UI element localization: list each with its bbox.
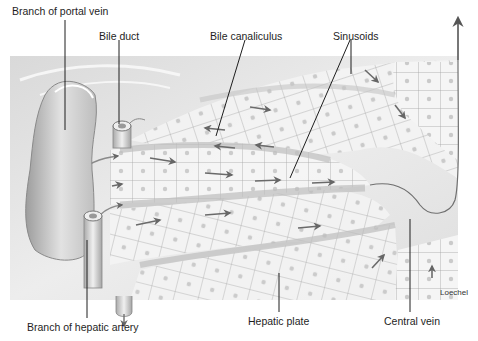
liver-lobule-illustration <box>0 0 478 341</box>
label-hepatic-plate: Hepatic plate <box>248 315 309 327</box>
label-sinusoids: Sinusoids <box>333 30 379 42</box>
label-hepatic-artery: Branch of hepatic artery <box>27 321 138 333</box>
label-bile-canaliculus: Bile canaliculus <box>210 30 282 42</box>
label-bile-duct: Bile duct <box>99 30 139 42</box>
label-portal-vein: Branch of portal vein <box>12 5 108 17</box>
label-central-vein: Central vein <box>384 315 440 327</box>
artist-credit: Loechel <box>440 288 468 297</box>
